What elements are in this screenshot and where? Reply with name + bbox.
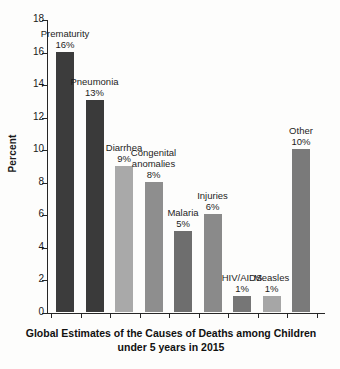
bar-value-label: 10%	[256, 136, 340, 147]
bar-category-label: Injuries	[168, 190, 258, 201]
x-tick-mark	[110, 313, 111, 318]
y-tick-label: 12	[22, 111, 44, 123]
bar-category-label: Congenital	[109, 147, 199, 158]
y-tick-16: 16	[47, 53, 48, 54]
y-tick-10: 10	[47, 150, 48, 151]
y-tick-2: 2	[47, 280, 48, 281]
bar-value-label: 16%	[20, 39, 110, 50]
bar-value-label: 8%	[109, 169, 199, 180]
caption-line-1: Global Estimates of the Causes of Deaths…	[10, 326, 332, 340]
y-tick-label: 8	[22, 176, 44, 188]
y-tick-label: 4	[22, 241, 44, 253]
x-tick-mark	[51, 313, 52, 318]
bar	[204, 214, 222, 312]
bar-category-label: Other	[256, 125, 340, 136]
x-tick-mark	[317, 313, 318, 318]
bar	[233, 296, 251, 312]
bar-category-label: Pneumonia	[50, 76, 140, 87]
bar-value-label: 5%	[138, 218, 228, 229]
y-tick-label: 0	[22, 306, 44, 318]
chart-caption: Global Estimates of the Causes of Deaths…	[10, 326, 332, 354]
x-tick-mark	[228, 313, 229, 318]
y-tick-18: 18	[47, 20, 48, 21]
y-tick-4: 4	[47, 248, 48, 249]
bar-category-label: Measles	[227, 272, 317, 283]
x-tick-mark	[199, 313, 200, 318]
bar-category-label: anomalies	[109, 158, 199, 169]
bar-category-label: Prematurity	[20, 28, 110, 39]
bar-value-label: 1%	[227, 283, 317, 294]
bar	[86, 100, 104, 312]
y-tick-label: 10	[22, 143, 44, 155]
y-tick-12: 12	[47, 118, 48, 119]
bar	[263, 296, 281, 312]
y-tick-14: 14	[47, 85, 48, 86]
y-tick-label: 6	[22, 208, 44, 220]
x-tick-mark	[169, 313, 170, 318]
x-axis-line	[47, 313, 325, 314]
x-tick-mark	[258, 313, 259, 318]
caption-line-2: under 5 years in 2015	[10, 340, 332, 354]
plot-area: 181614121086420 Prematurity16%Pneumonia1…	[47, 20, 325, 313]
y-axis-title: Percent	[7, 124, 18, 184]
bar-value-label: 6%	[168, 201, 258, 212]
bar-annotation: Other10%	[256, 125, 340, 147]
bar-annotation: Pneumonia13%	[50, 76, 140, 98]
bar-annotation: Injuries6%	[168, 190, 258, 212]
bar-annotation: Prematurity16%	[20, 28, 110, 50]
y-axis-line	[47, 20, 48, 314]
bar-annotation: Measles1%	[227, 272, 317, 294]
x-tick-mark	[81, 313, 82, 318]
y-tick-0: 0	[47, 313, 48, 314]
y-tick-label: 14	[22, 78, 44, 90]
y-tick-6: 6	[47, 215, 48, 216]
bar	[145, 182, 163, 312]
x-tick-mark	[287, 313, 288, 318]
y-tick-8: 8	[47, 183, 48, 184]
y-tick-label: 2	[22, 273, 44, 285]
bar	[174, 231, 192, 312]
bar-chart-figure: Percent 181614121086420 Prematurity16%Pn…	[0, 0, 340, 369]
bar-annotation: Congenitalanomalies8%	[109, 147, 199, 180]
bar	[115, 166, 133, 313]
x-tick-mark	[140, 313, 141, 318]
y-tick-label: 18	[22, 13, 44, 25]
bar-value-label: 13%	[50, 87, 140, 98]
